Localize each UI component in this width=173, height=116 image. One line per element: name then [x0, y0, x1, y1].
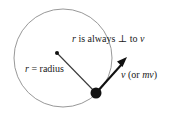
- perpendicular-text-post: to: [127, 33, 140, 44]
- circular-motion-figure: r is always ⊥ to v r = radius v (or mv): [0, 0, 173, 116]
- radius-word: radius: [40, 63, 64, 74]
- point-mass-dot: [91, 88, 102, 99]
- velocity-annotation: v (or mv): [121, 70, 157, 80]
- center-dot: [55, 51, 59, 55]
- momentum-symbol: mv: [142, 69, 154, 80]
- radius-equals-sign: =: [29, 63, 40, 74]
- perpendicular-annotation: r is always ⊥ to v: [72, 34, 145, 44]
- diagram-canvas: [0, 0, 173, 116]
- velocity-paren-open: (or: [125, 69, 142, 80]
- velocity-vector-arrowhead: [117, 57, 127, 67]
- velocity-paren-close: ): [154, 69, 157, 80]
- radius-annotation: r = radius: [25, 64, 64, 74]
- perpendicular-v-symbol: v: [140, 33, 144, 44]
- velocity-vector-shaft: [96, 64, 122, 93]
- perpendicular-icon: ⊥: [118, 33, 127, 44]
- perpendicular-text-mid: is always: [76, 33, 118, 44]
